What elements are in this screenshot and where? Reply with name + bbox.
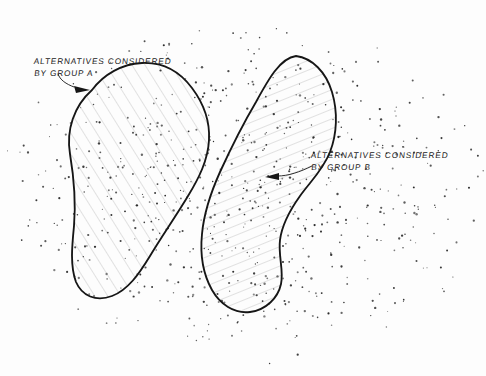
group-a-caption: ALTERNATIVES CONSIDERED BY GROUP A <box>32 56 173 79</box>
group-b-caption-line1: ALTERNATIVES CONSIDERED <box>310 151 449 160</box>
group-b-caption-line2: BY GROUP B <box>309 162 448 174</box>
group-b-caption: ALTERNATIVES CONSIDERED BY GROUP B <box>309 150 450 173</box>
group-a-caption-line2: BY GROUP A <box>32 68 171 80</box>
group-a-caption-line1: ALTERNATIVES CONSIDERED <box>33 57 172 66</box>
diagram-canvas: ALTERNATIVES CONSIDERED BY GROUP A ALTER… <box>0 0 486 376</box>
